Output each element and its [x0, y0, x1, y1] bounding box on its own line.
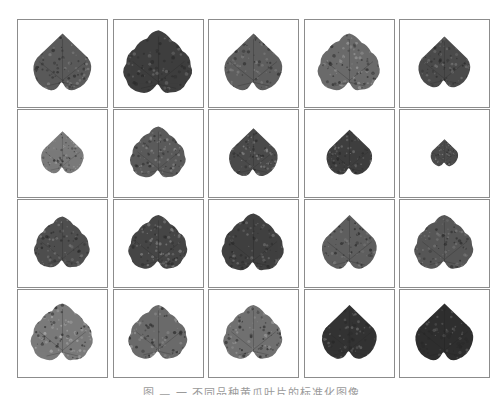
- leaf-image: [18, 290, 107, 377]
- leaf-image: [209, 200, 298, 287]
- leaf-tile-r4-c5: [399, 289, 490, 378]
- figure-caption: 图 — 一 不同品种黄瓜叶片的标准化图像: [0, 384, 503, 395]
- leaf-tile-r4-c4: [304, 289, 395, 378]
- leaf-tile-r2-c3: [208, 109, 299, 198]
- leaf-tile-r3-c4: [304, 199, 395, 288]
- leaf-image: [400, 110, 489, 197]
- leaf-image: [209, 290, 298, 377]
- leaf-image: [209, 110, 298, 197]
- leaf-tile-r3-c5: [399, 199, 490, 288]
- leaf-image: [305, 110, 394, 197]
- leaf-image: [114, 20, 203, 107]
- leaf-tile-r2-c2: [113, 109, 204, 198]
- leaf-tile-r2-c5: [399, 109, 490, 198]
- leaf-tile-r4-c2: [113, 289, 204, 378]
- leaf-image: [305, 20, 394, 107]
- leaf-tile-r3-c2: [113, 199, 204, 288]
- leaf-image: [400, 290, 489, 377]
- leaf-tile-r1-c4: [304, 19, 395, 108]
- leaf-image: [114, 110, 203, 197]
- leaf-image: [18, 20, 107, 107]
- leaf-image: [305, 290, 394, 377]
- leaf-tile-r1-c2: [113, 19, 204, 108]
- leaf-image: [400, 20, 489, 107]
- leaf-tile-r4-c1: [17, 289, 108, 378]
- leaf-image: [114, 200, 203, 287]
- leaf-tile-r4-c3: [208, 289, 299, 378]
- leaf-image: [18, 200, 107, 287]
- leaf-tile-r1-c1: [17, 19, 108, 108]
- leaf-tile-r3-c3: [208, 199, 299, 288]
- leaf-tile-r2-c4: [304, 109, 395, 198]
- leaf-image: [209, 20, 298, 107]
- leaf-image: [18, 110, 107, 197]
- leaf-tile-r3-c1: [17, 199, 108, 288]
- leaf-image-grid: [17, 19, 490, 380]
- leaf-image: [114, 290, 203, 377]
- leaf-image: [305, 200, 394, 287]
- leaf-tile-r1-c3: [208, 19, 299, 108]
- leaf-tile-r1-c5: [399, 19, 490, 108]
- leaf-image: [400, 200, 489, 287]
- leaf-tile-r2-c1: [17, 109, 108, 198]
